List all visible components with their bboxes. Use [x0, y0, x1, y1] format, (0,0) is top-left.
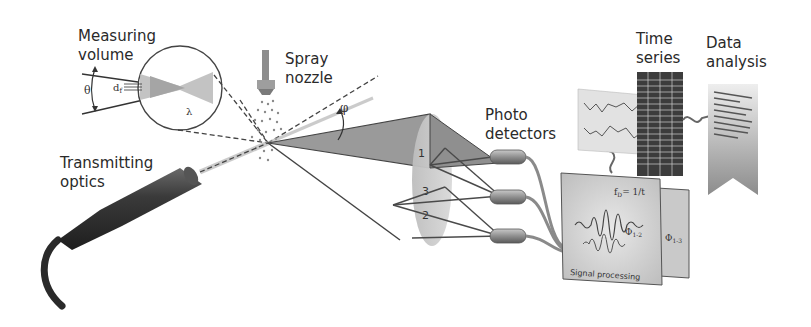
photo-detectors-label: Photo detectors [485, 106, 556, 144]
theta-arc [92, 68, 96, 110]
detector-1 [490, 150, 526, 164]
wavelength-symbol: λ [186, 106, 193, 117]
receiving-cone: φ [268, 101, 430, 240]
arrow-to-time-series [606, 150, 614, 173]
fiber-cable [44, 240, 62, 306]
photo-detectors [490, 150, 565, 252]
phi-symbol: φ [340, 101, 348, 115]
zone-1-label: 1 [418, 147, 425, 160]
theta-symbol: θ [84, 84, 91, 97]
measuring-volume-label: Measuring volume [78, 27, 156, 65]
arrow-to-data-analysis [683, 116, 710, 122]
spray-droplets [251, 100, 282, 161]
spray-nozzle-label: Spray nozzle [285, 50, 333, 88]
fringe-spacing-symbol: df [113, 82, 123, 95]
data-analysis-document [708, 84, 758, 195]
signal-processing-panels: fD= 1/t Φ1-2 Φ1-3 Signal processing [561, 173, 689, 285]
detector-2 [490, 190, 526, 204]
time-series-label: Time series [636, 30, 680, 68]
detector-3 [490, 229, 526, 243]
zone-3-label: 3 [422, 185, 429, 198]
time-series-table [637, 72, 683, 176]
transmitting-optics-label: Transmitting optics [60, 154, 153, 192]
detector-cables [526, 157, 565, 252]
data-analysis-label: Data analysis [706, 34, 767, 72]
